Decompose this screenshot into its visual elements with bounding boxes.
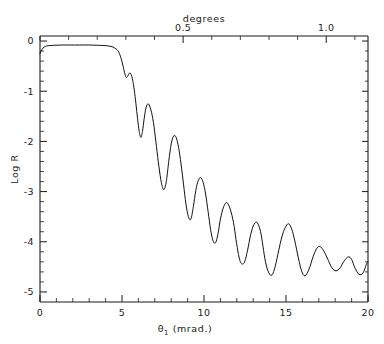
y-tick-label: -1	[24, 86, 34, 97]
x-axis-title-units: (mrad.)	[169, 323, 212, 334]
plot-background	[0, 0, 384, 344]
figure-container: 05101520 0-1-2-3-4-5 0.51.0 degrees Log …	[0, 0, 384, 344]
top-tick-label: 1.0	[318, 22, 334, 33]
x-tick-label: 5	[119, 307, 125, 318]
x-tick-label: 15	[280, 307, 293, 318]
y-axis-title: Log R	[9, 154, 20, 184]
y-tick-label: 0	[28, 35, 34, 46]
y-tick-label: -4	[24, 236, 34, 247]
reflectivity-plot: 05101520 0-1-2-3-4-5 0.51.0 degrees Log …	[0, 0, 384, 344]
x-tick-label: 20	[362, 307, 375, 318]
y-tick-label: -2	[24, 136, 34, 147]
x-tick-label: 0	[37, 307, 43, 318]
top-axis-title: degrees	[183, 13, 225, 24]
x-tick-label: 10	[198, 307, 211, 318]
y-tick-label: -3	[24, 186, 34, 197]
y-tick-label: -5	[24, 286, 34, 297]
